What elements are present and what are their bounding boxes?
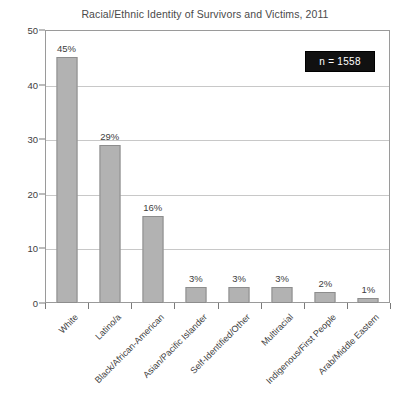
bar-group: 16%	[131, 30, 174, 303]
x-axis-tick-mark	[174, 303, 175, 309]
x-axis-tick-mark	[390, 303, 391, 309]
bar-group: 3%	[261, 30, 304, 303]
bar-value-label: 3%	[232, 273, 246, 284]
sample-size-badge: n = 1558	[305, 51, 375, 72]
bar	[229, 287, 250, 303]
bar-group: 3%	[218, 30, 261, 303]
bar-value-label: 1%	[362, 284, 376, 295]
bar-group: 3%	[174, 30, 217, 303]
x-axis-category-label: Multiracial	[260, 312, 296, 348]
bar	[315, 292, 336, 303]
chart-title: Racial/Ethnic Identity of Survivors and …	[0, 8, 410, 20]
y-axis-tick-label: 0	[0, 298, 38, 309]
x-axis-tick-mark	[131, 303, 132, 309]
y-axis-tick-label: 10	[0, 243, 38, 254]
bar-group: 29%	[88, 30, 131, 303]
bar	[56, 57, 77, 303]
bar-value-label: 3%	[189, 273, 203, 284]
x-axis-category-label: White	[56, 312, 79, 335]
bar-chart: Racial/Ethnic Identity of Survivors and …	[0, 0, 410, 410]
bar-value-label: 2%	[318, 278, 332, 289]
x-axis-category-label: Latino/a	[93, 312, 123, 342]
y-axis-tick-label: 40	[0, 79, 38, 90]
x-axis-tick-mark	[218, 303, 219, 309]
x-axis-tick-mark	[304, 303, 305, 309]
bar	[272, 287, 293, 303]
x-axis-tick-mark	[45, 303, 46, 309]
x-axis-tick-mark	[261, 303, 262, 309]
y-axis-tick-label: 30	[0, 134, 38, 145]
bar-value-label: 16%	[143, 202, 162, 213]
bar-value-label: 3%	[275, 273, 289, 284]
bar-value-label: 45%	[57, 43, 76, 54]
bar-value-label: 29%	[100, 131, 119, 142]
bar	[99, 145, 120, 303]
x-axis-tick-mark	[88, 303, 89, 309]
y-axis-tick-label: 50	[0, 25, 38, 36]
y-axis-tick-label: 20	[0, 188, 38, 199]
bar	[142, 216, 163, 303]
bar-group: 45%	[45, 30, 88, 303]
x-axis-tick-mark	[347, 303, 348, 309]
bar	[185, 287, 206, 303]
bar	[358, 298, 379, 303]
